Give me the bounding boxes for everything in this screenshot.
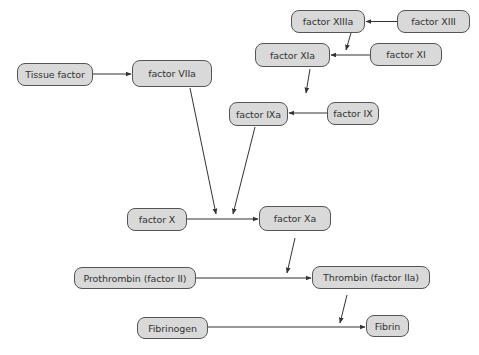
- node-iia: Thrombin (factor IIa): [312, 266, 430, 289]
- node-xia: factor XIa: [255, 43, 330, 67]
- node-tf: Tissue factor: [17, 63, 93, 86]
- node-xiii: factor XIII: [397, 10, 470, 33]
- node-viia: factor VIIa: [132, 60, 212, 87]
- node-fbg: Fibrinogen: [137, 317, 208, 339]
- edge-xia-to-ixa-edge: [306, 69, 310, 93]
- edge-viia-to-x-xa-edge: [190, 88, 216, 214]
- node-ii: Prothrombin (factor II): [74, 267, 196, 289]
- edge-xa-to-ii-iia-edge: [287, 238, 295, 273]
- node-fb: Fibrin: [366, 315, 409, 337]
- node-xi: factor XI: [370, 43, 442, 66]
- node-xa: factor Xa: [259, 206, 331, 231]
- edge-iia-to-fbg-fb-edge: [340, 295, 347, 323]
- edge-ixa-to-x-xa-edge: [233, 127, 255, 214]
- node-ix: factor IX: [327, 102, 379, 125]
- node-xiiia: factor XIIIa: [291, 10, 365, 33]
- node-x: factor X: [127, 208, 187, 231]
- edge-xiiia-to-xia-edge: [346, 33, 351, 50]
- coagulation-cascade-diagram: factor XIIIafactor XIIIfactor XIafactor …: [0, 0, 479, 355]
- node-ixa: factor IXa: [229, 102, 288, 126]
